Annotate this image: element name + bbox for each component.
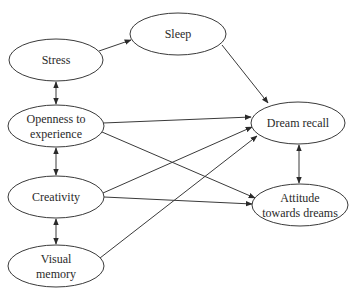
node-label: Openness to [27,112,86,126]
edge-creativity-to-dream-recall-arrow-icon [103,127,252,193]
node-openness: Openness toexperience [8,105,104,147]
node-creativity: Creativity [8,176,104,218]
edge-creativity-to-attitude-arrow-icon [104,197,252,204]
edge-openness-to-attitude-arrow-icon [102,132,255,198]
node-label: towards dreams [262,206,338,220]
edge-stress-to-sleep-arrow-icon [99,40,131,51]
node-label: memory [36,267,76,281]
node-label: Stress [42,53,71,67]
path-diagram: StressSleepOpenness toexperienceCreativi… [0,0,356,293]
node-stress: Stress [9,39,103,81]
node-attitude: Attitudetowards dreams [252,184,348,226]
node-sleep: Sleep [130,13,226,55]
node-label: experience [30,127,82,141]
node-label: Attitude [280,191,319,205]
node-label: Visual [41,252,72,266]
edge-visual-memory-to-dream-recall-arrow-icon [100,136,257,258]
node-label: Dream recall [267,116,330,130]
edge-sleep-to-dream-recall-arrow-icon [222,45,268,103]
node-visual-memory: Visualmemory [8,245,104,287]
node-label: Sleep [165,27,192,41]
edge-openness-to-dream-recall-arrow-icon [103,117,251,123]
node-label: Creativity [32,190,80,204]
nodes-layer: StressSleepOpenness toexperienceCreativi… [8,13,348,287]
node-dream-recall: Dream recall [251,102,345,144]
